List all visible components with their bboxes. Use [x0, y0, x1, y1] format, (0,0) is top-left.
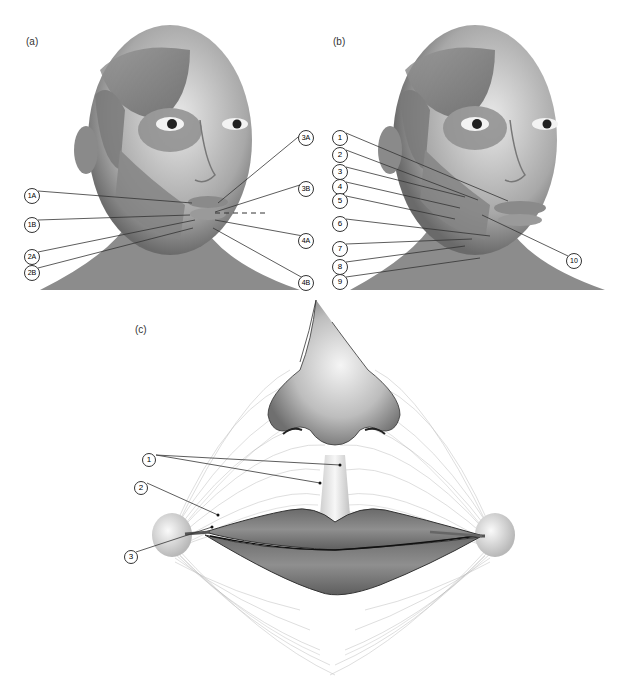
callout-c-2: 2 — [134, 476, 148, 495]
lips — [185, 509, 485, 595]
callout-1A: 1A — [24, 184, 40, 204]
callout-4B: 4B — [298, 271, 314, 291]
callout-c-1: 1 — [142, 448, 156, 467]
panel-c: (c) — [0, 300, 625, 678]
callout-9: 9 — [332, 270, 348, 290]
callout-3A: 3A — [298, 126, 314, 146]
callout-7: 7 — [332, 237, 348, 257]
callout-2B: 2B — [24, 261, 40, 281]
nose — [268, 300, 400, 445]
callout-1B: 1B — [24, 213, 40, 233]
callout-3B: 3B — [298, 177, 314, 197]
callout-c-3: 3 — [124, 545, 138, 564]
callout-4A: 4A — [298, 229, 314, 249]
panel-b: (b) — [320, 0, 625, 300]
callout-6: 6 — [332, 212, 348, 232]
callout-10: 10 — [566, 249, 582, 269]
panel-c-illustration — [0, 300, 625, 678]
callout-5: 5 — [332, 189, 348, 209]
panel-a: (a) — [0, 0, 315, 300]
panel-a-illustration — [0, 0, 315, 300]
